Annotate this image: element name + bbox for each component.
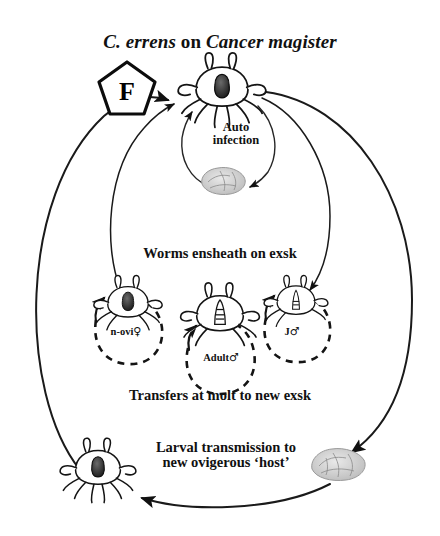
stage-label-adult-male: Adult♂ — [190, 352, 252, 364]
figure-title-connector: on — [176, 31, 206, 52]
outer-arc-left — [36, 97, 168, 470]
worms-ensheath-label: Worms ensheath on exsk — [0, 246, 440, 261]
larval-transmission-line1: Larval transmission to — [126, 440, 326, 455]
stage-label-n-ovi-female: n-ovi♀ — [98, 326, 154, 338]
larval-transmission-line2: new ovigerous ‘host’ — [126, 455, 326, 470]
figure-title: C. errens on Cancer magister — [0, 32, 440, 52]
auto-infection-label: Auto infection — [196, 121, 276, 147]
figure-panel: C. errens on Cancer magister F Auto infe… — [0, 0, 440, 536]
male-symbol-icon: ♂ — [229, 351, 239, 364]
stage-label-n-ovi-text: n-ovi — [111, 326, 134, 337]
male-symbol-icon-2: ♂ — [290, 325, 300, 338]
stage-label-juvenile-male: J♂ — [272, 326, 312, 338]
auto-infection-line2: infection — [196, 134, 276, 147]
stage-label-adult-text: Adult — [203, 352, 229, 363]
figure-title-species: C. errens — [103, 31, 176, 52]
figure-title-host: Cancer magister — [206, 31, 337, 52]
crab-juvenile-male — [264, 275, 328, 326]
panel-letter-text: F — [98, 62, 156, 118]
crab-top — [178, 53, 266, 128]
crab-n-ovi-female — [94, 276, 162, 330]
transfers-at-molt-label: Transfers at molt to new exsk — [0, 388, 440, 403]
female-symbol-icon: ♀ — [133, 325, 141, 338]
egg-mass-auto-infection — [202, 167, 246, 194]
panel-letter-badge: F — [98, 62, 156, 118]
bottom-arc — [142, 484, 330, 507]
larval-transmission-label: Larval transmission to new ovigerous ‘ho… — [126, 440, 326, 470]
crab-bottom-new-host — [60, 438, 136, 502]
